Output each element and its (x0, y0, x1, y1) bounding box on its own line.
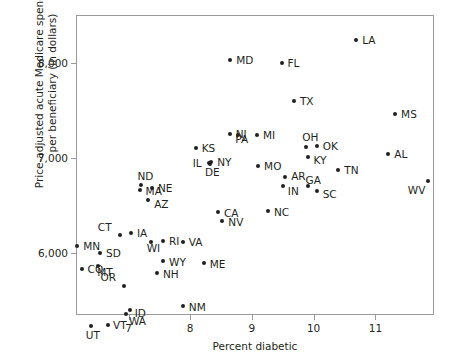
plot-area (76, 15, 434, 315)
data-point[interactable] (202, 261, 206, 265)
data-point-label: WI (147, 243, 160, 254)
data-point[interactable] (150, 186, 154, 190)
data-point-label: MN (83, 241, 100, 252)
data-point[interactable] (194, 146, 198, 150)
data-point-label: OK (323, 141, 338, 152)
data-point-label: AL (394, 149, 407, 160)
data-point[interactable] (118, 233, 122, 237)
data-point-label: KY (314, 155, 327, 166)
data-point[interactable] (315, 189, 319, 193)
data-point[interactable] (106, 323, 110, 327)
data-point-label: AZ (154, 199, 168, 210)
data-point-label: OH (302, 132, 318, 143)
x-tick-label: 11 (360, 322, 390, 334)
data-point[interactable] (386, 152, 390, 156)
data-point[interactable] (128, 308, 132, 312)
data-point[interactable] (266, 209, 270, 213)
data-point[interactable] (292, 99, 296, 103)
data-point-label: MD (236, 55, 253, 66)
data-point[interactable] (161, 259, 165, 263)
y-axis-title-line2: per beneficiary (in dollars) (46, 14, 58, 153)
data-point[interactable] (354, 38, 358, 42)
data-point-label: NE (158, 183, 173, 194)
data-point[interactable] (75, 244, 79, 248)
data-point[interactable] (393, 112, 397, 116)
data-point-label: TX (300, 96, 314, 107)
data-point-label: GA (306, 175, 321, 186)
data-point-label: AR (291, 171, 305, 182)
data-point[interactable] (306, 155, 310, 159)
data-point[interactable] (181, 240, 185, 244)
data-point[interactable] (122, 284, 126, 288)
x-tick-label: 8 (175, 322, 205, 334)
data-point-label: KS (202, 143, 216, 154)
data-point-label: NM (189, 302, 206, 313)
data-point[interactable] (161, 239, 165, 243)
data-point[interactable] (181, 304, 185, 308)
data-point-label: NC (274, 207, 289, 218)
scatter-chart-figure: 7891011 6,0007,0008,000 MNCOUTSDMTVTCTWA… (0, 0, 450, 364)
data-point[interactable] (124, 312, 128, 316)
data-point-label: SC (323, 189, 337, 200)
y-tick-mark (71, 253, 76, 254)
data-point-label: ND (137, 171, 153, 182)
y-axis-title-line1: Price-adjusted acute Medicare spending (33, 0, 45, 188)
y-tick-mark (71, 63, 76, 64)
data-point-label: IN (288, 186, 299, 197)
data-point-label: NY (217, 157, 231, 168)
data-point[interactable] (315, 144, 319, 148)
data-point-label: ID (135, 308, 146, 319)
data-point-label: VA (189, 237, 203, 248)
data-point-label: LA (362, 35, 375, 46)
data-point-label: IL (193, 158, 202, 169)
data-point[interactable] (283, 175, 287, 179)
data-point-label: WV (408, 185, 426, 196)
data-point-label: VT (113, 320, 127, 331)
data-point[interactable] (228, 132, 232, 136)
data-point[interactable] (139, 183, 143, 187)
data-point-label: IA (137, 228, 147, 239)
data-point-label: DE (205, 167, 220, 178)
data-point-label: MO (264, 161, 281, 172)
data-point-label: ME (210, 259, 226, 270)
data-point-label: MS (401, 109, 417, 120)
data-point-label: MI (263, 130, 275, 141)
data-point[interactable] (209, 160, 213, 164)
data-point-label: NV (228, 217, 243, 228)
data-point[interactable] (146, 198, 150, 202)
x-tick-mark (190, 315, 191, 320)
y-axis-title: Price-adjusted acute Medicare spending p… (33, 0, 59, 203)
data-point[interactable] (216, 210, 220, 214)
y-tick-mark (71, 158, 76, 159)
data-point[interactable] (129, 231, 133, 235)
x-tick-label: 9 (237, 322, 267, 334)
data-point-label: TN (344, 165, 358, 176)
data-point[interactable] (304, 145, 308, 149)
data-point[interactable] (336, 168, 340, 172)
x-tick-mark (252, 315, 253, 320)
data-point[interactable] (426, 179, 430, 183)
data-point-label: RI (169, 236, 179, 247)
data-point[interactable] (89, 324, 93, 328)
data-point[interactable] (256, 164, 260, 168)
data-point-label: OR (101, 272, 117, 283)
data-point-label: SD (106, 248, 121, 259)
data-point[interactable] (98, 251, 102, 255)
data-point[interactable] (80, 267, 84, 271)
x-axis-title: Percent diabetic (76, 340, 434, 352)
data-point[interactable] (255, 133, 259, 137)
data-point[interactable] (220, 219, 224, 223)
data-point-label: WY (169, 257, 186, 268)
x-tick-label: 10 (299, 322, 329, 334)
x-tick-mark (314, 315, 315, 320)
data-point[interactable] (155, 271, 159, 275)
data-point[interactable] (228, 58, 232, 62)
x-tick-mark (375, 315, 376, 320)
y-tick-label: 6,000 (26, 247, 68, 259)
data-point[interactable] (138, 188, 142, 192)
data-point[interactable] (281, 184, 285, 188)
data-point-label: NH (163, 269, 179, 280)
data-point-label: FL (288, 58, 300, 69)
data-point[interactable] (280, 61, 284, 65)
data-point-label: PA (235, 134, 248, 145)
